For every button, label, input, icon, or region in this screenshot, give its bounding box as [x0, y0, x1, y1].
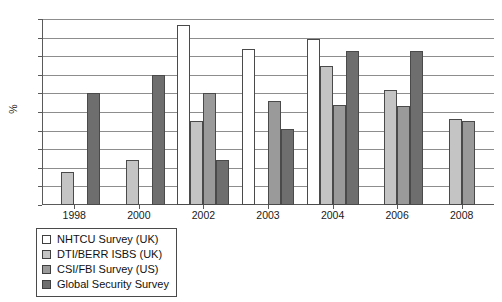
x-tick-label-2002: 2002: [171, 209, 236, 221]
x-tick-label-1998: 1998: [42, 209, 107, 221]
bar: [203, 93, 216, 205]
legend-swatch-icon: [42, 235, 51, 244]
bar-group-2002: [171, 19, 236, 205]
legend-item[interactable]: Global Security Survey: [42, 277, 169, 292]
bar: [216, 160, 229, 205]
bar: [462, 121, 475, 205]
bar: [268, 101, 281, 205]
legend-label: Global Security Survey: [57, 279, 169, 290]
legend-label: NHTCU Survey (UK): [57, 234, 158, 245]
chart-legend: NHTCU Survey (UK)DTI/BERR ISBS (UK)CSI/F…: [36, 228, 177, 297]
x-tick-label-2003: 2003: [236, 209, 301, 221]
y-axis-title: %: [7, 104, 19, 113]
bar: [333, 105, 346, 205]
bar: [384, 90, 397, 205]
bars-layer: [42, 19, 494, 205]
legend-swatch-icon: [42, 265, 51, 274]
bar: [177, 25, 190, 205]
bar: [449, 119, 462, 205]
bar-group-2000: [107, 19, 172, 205]
legend-label: DTI/BERR ISBS (UK): [57, 249, 162, 260]
bar: [61, 172, 74, 205]
bar: [397, 106, 410, 205]
bar: [242, 49, 255, 205]
bar-group-2008: [429, 19, 494, 205]
x-tick-label-2004: 2004: [300, 209, 365, 221]
legend-item[interactable]: CSI/FBI Survey (US): [42, 262, 169, 277]
bar-group-2003: [236, 19, 301, 205]
bar: [410, 51, 423, 205]
bar-group-1998: [42, 19, 107, 205]
plot-area: 1009080706050403020100: [42, 19, 494, 205]
y-tick-mark: [38, 205, 42, 206]
x-tick-label-2000: 2000: [107, 209, 172, 221]
bar-group-2004: [300, 19, 365, 205]
bar: [87, 93, 100, 205]
legend-swatch-icon: [42, 250, 51, 259]
bar: [346, 51, 359, 205]
bar-group-2006: [365, 19, 430, 205]
legend-item[interactable]: NHTCU Survey (UK): [42, 232, 169, 247]
legend-swatch-icon: [42, 280, 51, 289]
bar: [307, 39, 320, 205]
bar: [126, 160, 139, 205]
x-tick-label-2008: 2008: [429, 209, 494, 221]
bar: [190, 121, 203, 205]
bar: [152, 75, 165, 205]
legend-item[interactable]: DTI/BERR ISBS (UK): [42, 247, 169, 262]
x-tick-label-2006: 2006: [365, 209, 430, 221]
bar-chart-figure: % 1009080706050403020100 199820002002200…: [0, 0, 502, 302]
legend-label: CSI/FBI Survey (US): [57, 264, 158, 275]
bar: [320, 66, 333, 206]
bar: [281, 129, 294, 205]
